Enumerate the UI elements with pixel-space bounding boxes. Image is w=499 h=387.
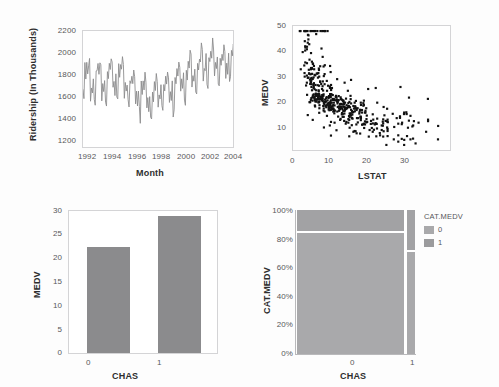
timeseries-line-svg: [83, 31, 233, 147]
legend-item-1[interactable]: 1: [424, 238, 490, 247]
timeseries-y-tick: 2200: [42, 26, 76, 35]
mosaic-column-chas-1[interactable]: [407, 210, 415, 354]
chart-medv-vs-lstat: MEDV 50 40 30 20 10 0 10 20 30 LSTAT: [252, 8, 492, 188]
chart-avg-medv-by-chas: MEDV 30 25 20 15 10 5 0 0 1 CHAS: [20, 196, 245, 381]
timeseries-x-axis-title: Month: [136, 168, 164, 178]
timeseries-plot-area: [82, 30, 234, 148]
timeseries-y-tick: 1800: [42, 70, 76, 79]
figure-panel-grid: Ridership (In Thousands) 2200 2000 1800 …: [0, 0, 499, 387]
legend-item-label: 0: [438, 225, 442, 234]
timeseries-x-tick: 2004: [224, 152, 242, 161]
mosaic-y-tick: 60%: [260, 263, 293, 272]
timeseries-y-tick: 1600: [42, 92, 76, 101]
mosaic-x-tick: 0: [350, 358, 355, 367]
mosaic-y-axis-title: CAT.MEDV: [262, 267, 272, 314]
bar-y-tick: 5: [34, 325, 62, 334]
chart-amtrak-ridership: Ridership (In Thousands) 2200 2000 1800 …: [20, 8, 245, 188]
scatter-x-tick: 20: [362, 156, 371, 165]
mosaic-y-tick: 40%: [260, 292, 293, 301]
bar-x-axis-title: CHAS: [112, 371, 138, 381]
timeseries-x-tick: 2000: [177, 152, 195, 161]
scatter-x-tick: 0: [290, 156, 295, 165]
bar-y-tick: 30: [34, 206, 62, 215]
scatter-y-tick: 10: [260, 123, 286, 132]
legend-item-0[interactable]: 0: [424, 225, 490, 234]
scatter-y-tick: 30: [260, 72, 286, 81]
mosaic-segment-chas1-catmedv1[interactable]: [407, 210, 415, 250]
mosaic-y-tick: 0%: [260, 349, 293, 358]
mosaic-segment-chas0-catmedv1[interactable]: [297, 210, 404, 231]
mosaic-x-axis-line: [295, 354, 416, 355]
bar-y-tick: 25: [34, 229, 62, 238]
mosaic-y-tick: 100%: [260, 206, 293, 215]
scatter-points-svg: [293, 26, 450, 150]
timeseries-y-tick: 1200: [42, 136, 76, 145]
timeseries-x-tick: 1994: [103, 152, 121, 161]
timeseries-x-tick: 1996: [128, 152, 146, 161]
mosaic-column-chas-0[interactable]: [297, 210, 404, 354]
bar-y-tick: 15: [34, 277, 62, 286]
bar-chas-1[interactable]: [158, 216, 201, 353]
legend-item-label: 1: [438, 238, 442, 247]
timeseries-x-tick: 1992: [78, 152, 96, 161]
timeseries-y-axis-title: Ridership (In Thousands): [28, 28, 38, 141]
bar-x-tick: 1: [157, 358, 162, 367]
bar-chas-0[interactable]: [87, 247, 130, 353]
scatter-x-tick: 10: [324, 156, 333, 165]
timeseries-x-tick: 2002: [201, 152, 219, 161]
mosaic-plot-area: [297, 210, 415, 354]
timeseries-x-tick: 1998: [152, 152, 170, 161]
scatter-plot-area: [292, 25, 451, 151]
mosaic-x-axis-title: CHAS: [340, 371, 366, 381]
timeseries-y-tick: 1400: [42, 114, 76, 123]
mosaic-segment-chas1-catmedv0[interactable]: [407, 252, 415, 354]
chart-mosaic-catmedv-by-chas: CAT.MEDV 100% 80% 60% 40% 20% 0% 0 1 CHA…: [252, 196, 495, 381]
legend-swatch-icon: [424, 226, 434, 234]
scatter-y-tick: 50: [260, 21, 286, 30]
scatter-x-tick: 30: [400, 156, 409, 165]
scatter-x-axis-title: LSTAT: [358, 171, 387, 181]
timeseries-y-tick: 2000: [42, 48, 76, 57]
mosaic-x-tick: 1: [410, 358, 415, 367]
legend-swatch-icon: [424, 239, 434, 247]
bar-plot-area: [68, 210, 218, 354]
bar-y-tick: 20: [34, 253, 62, 262]
scatter-y-tick: 40: [260, 46, 286, 55]
mosaic-legend: CAT.MEDV 0 1: [424, 212, 490, 251]
mosaic-segment-chas0-catmedv0[interactable]: [297, 233, 404, 354]
scatter-y-tick: 20: [260, 97, 286, 106]
legend-title: CAT.MEDV: [424, 212, 490, 221]
bar-y-tick: 10: [34, 301, 62, 310]
bar-y-tick: 0: [34, 348, 62, 357]
mosaic-y-tick: 80%: [260, 235, 293, 244]
mosaic-y-tick: 20%: [260, 320, 293, 329]
mosaic-y-axis-line: [295, 210, 296, 354]
bar-x-tick: 0: [86, 358, 91, 367]
